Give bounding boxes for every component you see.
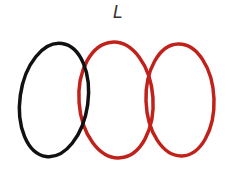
- red-oval-right: [144, 43, 216, 157]
- black-oval-left: [12, 39, 95, 161]
- ovals-diagram: [0, 0, 228, 170]
